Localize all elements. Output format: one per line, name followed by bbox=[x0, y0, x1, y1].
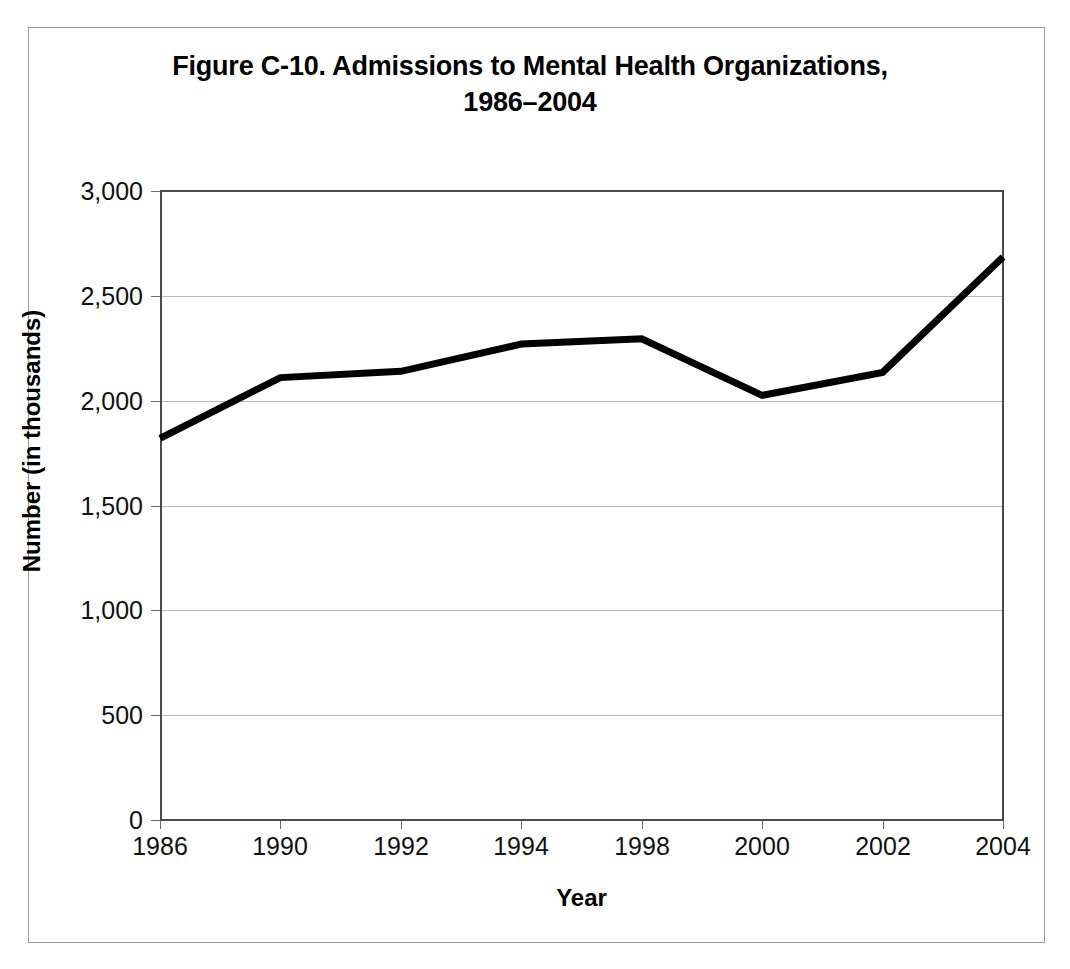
x-tick-label: 2002 bbox=[855, 832, 911, 861]
x-tick-label: 2000 bbox=[734, 832, 790, 861]
x-tick-label: 1992 bbox=[373, 832, 429, 861]
x-tick-label: 1994 bbox=[493, 832, 549, 861]
y-tick-label: 3,000 bbox=[0, 177, 143, 206]
line-series bbox=[160, 191, 1003, 820]
x-axis-title: Year bbox=[160, 884, 1003, 912]
figure-root: Figure C-10. Admissions to Mental Health… bbox=[0, 0, 1070, 969]
x-tick-label: 2004 bbox=[975, 832, 1031, 861]
x-tick-mark bbox=[280, 820, 281, 829]
chart-title-line-1: Figure C-10. Admissions to Mental Health… bbox=[90, 48, 970, 84]
y-tick-mark bbox=[151, 401, 160, 402]
chart-title: Figure C-10. Admissions to Mental Health… bbox=[90, 48, 970, 121]
y-tick-mark bbox=[151, 296, 160, 297]
admissions-line bbox=[160, 257, 1003, 438]
x-tick-label: 1998 bbox=[614, 832, 670, 861]
x-tick-mark bbox=[762, 820, 763, 829]
y-axis-title: Number (in thousands) bbox=[18, 241, 46, 641]
x-tick-mark bbox=[642, 820, 643, 829]
y-tick-mark bbox=[151, 715, 160, 716]
x-tick-mark bbox=[160, 820, 161, 829]
x-tick-mark bbox=[883, 820, 884, 829]
chart-title-line-2: 1986–2004 bbox=[90, 84, 970, 120]
x-tick-label: 1986 bbox=[132, 832, 188, 861]
y-tick-mark bbox=[151, 820, 160, 821]
y-tick-label: 500 bbox=[0, 701, 143, 730]
y-tick-mark bbox=[151, 191, 160, 192]
x-tick-label: 1990 bbox=[252, 832, 308, 861]
x-tick-mark bbox=[521, 820, 522, 829]
x-tick-mark bbox=[401, 820, 402, 829]
y-tick-mark bbox=[151, 506, 160, 507]
x-tick-mark bbox=[1003, 820, 1004, 829]
y-tick-mark bbox=[151, 610, 160, 611]
y-tick-label: 0 bbox=[0, 806, 143, 835]
